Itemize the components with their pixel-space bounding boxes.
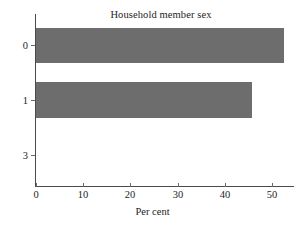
y-tick-1	[31, 100, 35, 101]
bar-category-1	[36, 82, 252, 118]
x-axis-tick-label-40: 40	[210, 189, 240, 201]
y-axis-label-1: 1	[2, 95, 28, 106]
bar-category-0	[36, 28, 284, 63]
bar-chart: Household member sex 0 1 3 0 10 20 30 40…	[0, 0, 302, 227]
x-axis-tick-label-30: 30	[163, 189, 193, 201]
y-tick-0	[31, 45, 35, 46]
y-tick-3	[31, 155, 35, 156]
x-tick-0	[36, 183, 37, 187]
x-axis-tick-label-50: 50	[257, 189, 287, 201]
x-tick-30	[178, 183, 179, 187]
y-axis-label-0: 0	[2, 40, 28, 51]
x-tick-10	[83, 183, 84, 187]
x-axis-tick-label-0: 0	[21, 189, 51, 201]
x-tick-20	[130, 183, 131, 187]
x-tick-50	[272, 183, 273, 187]
x-axis-title: Per cent	[36, 205, 269, 218]
x-axis-tick-label-20: 20	[115, 189, 145, 201]
x-axis-tick-label-10: 10	[68, 189, 98, 201]
chart-title: Household member sex	[36, 8, 286, 21]
x-tick-40	[225, 183, 226, 187]
y-axis-label-3: 3	[2, 150, 28, 161]
x-axis-line	[35, 186, 294, 187]
